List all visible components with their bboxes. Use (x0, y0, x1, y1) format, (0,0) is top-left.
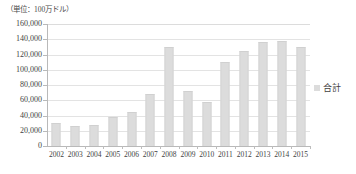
bar-slot (197, 24, 216, 146)
x-axis-tick-mark (66, 146, 67, 149)
x-axis-tick-label: 2007 (141, 150, 160, 160)
x-axis-tick-mark (254, 146, 255, 149)
y-axis-tick-label: 160,000 (0, 20, 42, 28)
x-axis-tick-label: 2013 (254, 150, 273, 160)
x-axis-tick-label: 2008 (160, 150, 179, 160)
legend-label-total: 合計 (323, 83, 341, 93)
x-axis-tick-label: 2012 (235, 150, 254, 160)
bar[interactable] (71, 126, 80, 146)
x-axis-tick-mark (216, 146, 217, 149)
x-axis-tick-mark (179, 146, 180, 149)
bar-slot (122, 24, 141, 146)
bar-slot (66, 24, 85, 146)
x-axis-tick-mark (160, 146, 161, 149)
bar-slot (103, 24, 122, 146)
x-axis-tick-label: 2006 (122, 150, 141, 160)
x-axis-tick-mark (291, 146, 292, 149)
bar[interactable] (108, 117, 117, 146)
y-axis-tick-label: 20,000 (0, 127, 42, 135)
bar[interactable] (146, 94, 155, 146)
y-axis-line (47, 24, 48, 147)
y-axis-tick-label: 60,000 (0, 96, 42, 104)
bar[interactable] (277, 41, 286, 146)
x-axis-tick-mark (197, 146, 198, 149)
y-axis-tick-label: 0 (0, 142, 42, 150)
x-axis-tick-mark (235, 146, 236, 149)
bar[interactable] (202, 102, 211, 146)
x-axis-tick-label: 2010 (197, 150, 216, 160)
bar[interactable] (127, 112, 136, 146)
x-axis-tick-label: 2002 (47, 150, 66, 160)
bar-slot (291, 24, 310, 146)
bar-slot (179, 24, 198, 146)
x-axis-tick-label: 2009 (179, 150, 198, 160)
bar[interactable] (221, 62, 230, 146)
x-axis-tick-mark (103, 146, 104, 149)
bar-slot (254, 24, 273, 146)
x-axis-tick-label: 2005 (103, 150, 122, 160)
y-axis-tick-label: 40,000 (0, 112, 42, 120)
y-axis-tick-labels: 020,00040,00060,00080,000100,000120,0001… (0, 0, 42, 174)
x-axis-tick-mark (141, 146, 142, 149)
bar-slot (141, 24, 160, 146)
y-axis-tick-label: 120,000 (0, 51, 42, 59)
bar[interactable] (52, 123, 61, 146)
y-axis-tick-label: 80,000 (0, 81, 42, 89)
bar-slot (85, 24, 104, 146)
x-axis-tick-mark (310, 146, 311, 149)
chart-legend: 合計 (314, 83, 341, 93)
x-axis-tick-label: 2015 (291, 150, 310, 160)
bar-slot (160, 24, 179, 146)
bar[interactable] (183, 91, 192, 146)
bar-series-total (47, 24, 310, 146)
x-axis-tick-mark (85, 146, 86, 149)
bar[interactable] (259, 42, 268, 146)
legend-swatch-total (314, 85, 320, 91)
x-axis-tick-mark (122, 146, 123, 149)
bar[interactable] (240, 51, 249, 146)
y-axis-tick-label: 140,000 (0, 35, 42, 43)
bar-slot (47, 24, 66, 146)
bar[interactable] (165, 47, 174, 146)
y-axis-tick-label: 100,000 (0, 66, 42, 74)
x-axis-tick-mark (272, 146, 273, 149)
bar-slot (235, 24, 254, 146)
plot-area (47, 24, 310, 146)
x-axis-tick-labels: 2002200320042005200620072008200920102011… (47, 150, 310, 164)
x-axis-tick-label: 2011 (216, 150, 235, 160)
x-axis-tick-label: 2014 (272, 150, 291, 160)
x-axis-tick-label: 2004 (85, 150, 104, 160)
bar-slot (272, 24, 291, 146)
bar[interactable] (296, 47, 305, 146)
bar-slot (216, 24, 235, 146)
bar-chart-figure: （単位：100万ドル） 020,00040,00060,00080,000100… (0, 0, 356, 174)
bar[interactable] (89, 125, 98, 146)
x-axis-tick-label: 2003 (66, 150, 85, 160)
